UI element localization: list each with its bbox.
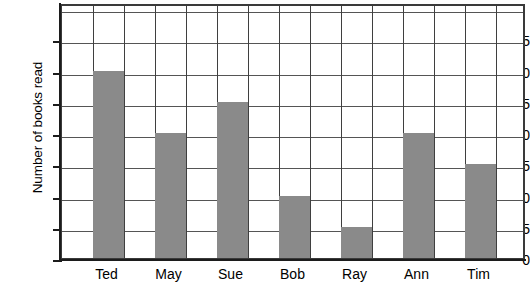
y-axis-line bbox=[59, 3, 61, 262]
gridline-vertical bbox=[248, 6, 249, 258]
x-axis-label-ted: Ted bbox=[77, 266, 136, 282]
gridline-vertical bbox=[186, 6, 187, 258]
bar bbox=[465, 164, 496, 258]
gridline-horizontal bbox=[62, 168, 523, 169]
bar-chart: Number of books read 05101520253035 TedM… bbox=[0, 0, 530, 294]
bar bbox=[403, 133, 434, 258]
x-axis-label-tim: Tim bbox=[449, 266, 508, 282]
gridline-vertical bbox=[310, 6, 311, 258]
x-axis-label-ray: Ray bbox=[325, 266, 384, 282]
x-axis-line bbox=[59, 259, 526, 261]
x-axis-label-may: May bbox=[139, 266, 198, 282]
bar bbox=[93, 71, 124, 258]
gridline-vertical bbox=[434, 6, 435, 258]
x-axis-label-sue: Sue bbox=[201, 266, 260, 282]
gridline-horizontal bbox=[62, 12, 523, 13]
gridline-horizontal bbox=[62, 75, 523, 76]
gridline-vertical bbox=[341, 6, 342, 258]
gridline-vertical bbox=[496, 6, 497, 258]
gridline-vertical bbox=[372, 6, 373, 258]
bar bbox=[279, 196, 310, 258]
gridline-horizontal bbox=[62, 43, 523, 44]
gridline-vertical bbox=[124, 6, 125, 258]
y-axis-title: Number of books read bbox=[30, 28, 45, 228]
gridline-horizontal bbox=[62, 137, 523, 138]
plot-area bbox=[60, 4, 525, 260]
bar bbox=[341, 227, 372, 258]
gridline-horizontal bbox=[62, 106, 523, 107]
bar bbox=[155, 133, 186, 258]
x-axis-label-ann: Ann bbox=[387, 266, 446, 282]
x-axis-label-bob: Bob bbox=[263, 266, 322, 282]
bar bbox=[217, 102, 248, 258]
